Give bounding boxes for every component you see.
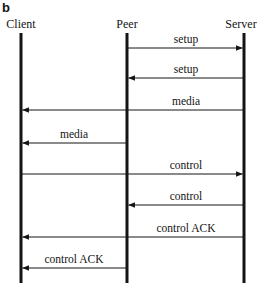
message-label-7: control ACK [44,253,103,266]
message-label-4: control [170,159,203,172]
messages-group [21,48,244,268]
message-label-3: media [60,128,88,141]
figure-canvas: b ClientPeerServer setupsetupmediamediac… [0,0,261,288]
actor-label-client: Client [6,17,35,31]
message-label-0: setup [174,33,198,46]
message-label-6: control ACK [156,222,215,235]
actor-label-peer: Peer [116,17,137,31]
message-label-5: control [170,190,203,203]
message-label-2: media [172,95,200,108]
sequence-diagram [0,0,261,288]
message-label-1: setup [174,63,198,76]
actor-label-server: Server [225,17,256,31]
lifelines-group [21,33,244,283]
